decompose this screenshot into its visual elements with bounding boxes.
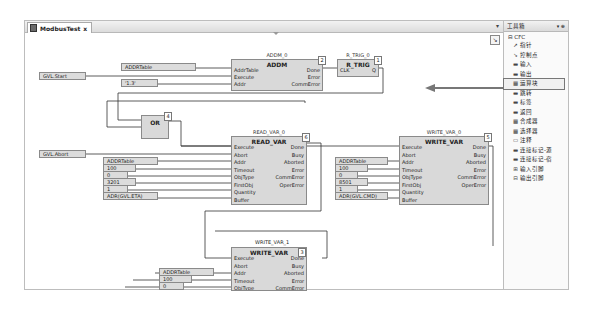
pin-done[interactable]: Done bbox=[291, 144, 304, 151]
toolbox-item-label: 运算块 bbox=[520, 80, 538, 86]
pin-commerror[interactable]: CommError bbox=[276, 174, 304, 181]
toolbox-item-selector[interactable]: ▦选择器 bbox=[504, 127, 568, 137]
toolbox-item-output-pin[interactable]: ⊟输出引脚 bbox=[504, 174, 568, 184]
pin-buffer[interactable]: Buffer bbox=[234, 197, 249, 204]
pin-busy[interactable]: Busy bbox=[292, 152, 304, 159]
pin-execute[interactable]: Execute bbox=[402, 144, 422, 151]
toolbox-item-input[interactable]: ▬输入 bbox=[504, 60, 568, 70]
fb-write-var-0[interactable]: WRITE_VAR_0 5 WRITE_VAR Execute Abort Ad… bbox=[399, 136, 489, 205]
toolbox-item-composer[interactable]: ▦合成器 bbox=[504, 117, 568, 127]
toolbox-item-label: 返回 bbox=[520, 109, 532, 115]
toolbox-item-label: 连接标记-源 bbox=[520, 147, 552, 153]
pin-timeout[interactable]: Timeout bbox=[234, 278, 254, 285]
execution-order-badge: 1 bbox=[374, 56, 382, 65]
output-pin-icon: ⊟ bbox=[512, 174, 519, 184]
toolbox-group-cfc[interactable]: ⊟ CFC bbox=[504, 32, 568, 41]
toolbox-title: 工具箱 bbox=[507, 23, 525, 29]
pin-done[interactable]: Done bbox=[473, 144, 486, 151]
pin-done[interactable]: Done bbox=[307, 67, 320, 74]
var-addr-literal[interactable]: '1.3' bbox=[121, 79, 158, 87]
pin-addr[interactable]: Addr bbox=[234, 270, 246, 277]
pin-abort[interactable]: Abort bbox=[402, 152, 416, 159]
var-read-buffer[interactable]: ADR(GVL.ETA) bbox=[103, 192, 158, 200]
pin-objtype[interactable]: ObjType bbox=[234, 174, 254, 181]
execution-order-badge: 4 bbox=[164, 112, 172, 121]
pin-execute[interactable]: Execute bbox=[234, 255, 254, 262]
pin-addrtable[interactable]: AddrTable bbox=[234, 67, 259, 74]
pin-aborted[interactable]: Aborted bbox=[284, 159, 304, 166]
pointer-icon: ➚ bbox=[512, 41, 519, 51]
pin-busy[interactable]: Busy bbox=[292, 263, 304, 270]
fb-write-var-1[interactable]: 3 WRITE_VAR Execute Abort Addr Timeout O… bbox=[231, 247, 307, 291]
toolbox-item-connection-source[interactable]: ▬连接标记-源 bbox=[504, 146, 568, 156]
pin-aborted[interactable]: Aborted bbox=[284, 270, 304, 277]
connection-sink-icon: ▬ bbox=[512, 155, 519, 165]
pin-objtype[interactable]: ObjType bbox=[234, 285, 254, 291]
pin-abort[interactable]: Abort bbox=[234, 152, 248, 159]
toolbox-item-box[interactable]: ▦运算块 bbox=[504, 79, 564, 89]
fb-read-var[interactable]: READ_VAR_0 6 READ_VAR Execute Abort Addr… bbox=[231, 136, 307, 205]
toolbox-item-pointer[interactable]: ➚指针 bbox=[504, 41, 568, 51]
pin-opererror[interactable]: OperError bbox=[462, 182, 486, 189]
pin-aborted[interactable]: Aborted bbox=[466, 159, 486, 166]
pin-quantity[interactable]: Quantity bbox=[402, 189, 424, 196]
pin-error[interactable]: Error bbox=[474, 167, 486, 174]
output-icon: ▬ bbox=[512, 70, 519, 80]
pin-opererror[interactable]: OperError bbox=[280, 182, 304, 189]
pin-error[interactable]: Error bbox=[292, 278, 304, 285]
var-write1-objtype[interactable]: 0 bbox=[159, 282, 184, 290]
pin-abort[interactable]: Abort bbox=[234, 263, 248, 270]
toolbox-item-jump[interactable]: ▬跳转 bbox=[504, 89, 568, 99]
control-point-icon: ➘ bbox=[512, 51, 519, 61]
pin-addr[interactable]: Addr bbox=[402, 159, 414, 166]
toolbox-pin-controls[interactable]: ▾ ⊕ bbox=[557, 21, 565, 31]
pin-objtype[interactable]: ObjType bbox=[402, 174, 422, 181]
pin-done[interactable]: Done bbox=[291, 255, 304, 262]
pin-execute[interactable]: Execute bbox=[234, 74, 254, 81]
pin-timeout[interactable]: Timeout bbox=[402, 167, 422, 174]
pin-execute[interactable]: Execute bbox=[234, 144, 254, 151]
pin-firstobj[interactable]: FirstObj bbox=[402, 182, 421, 189]
toolbox-item-connection-sink[interactable]: ▬连接标记-宿 bbox=[504, 155, 568, 165]
pin-clk[interactable]: CLK bbox=[340, 67, 350, 74]
pin-timeout[interactable]: Timeout bbox=[234, 167, 254, 174]
toolbox-item-input-pin[interactable]: ⊞输入引脚 bbox=[504, 165, 568, 175]
pin-commerror[interactable]: CommError bbox=[458, 174, 486, 181]
fb-r-trig[interactable]: R_TRIG_0 1 R_TRIG CLK Q bbox=[337, 59, 379, 77]
toolbox-item-label[interactable]: ▬标签 bbox=[504, 98, 568, 108]
pin-buffer[interactable]: Buffer bbox=[402, 197, 417, 204]
pin-busy[interactable]: Busy bbox=[474, 152, 486, 159]
toolbox-item-output[interactable]: ▬输出 bbox=[504, 70, 568, 80]
input-pin-icon: ⊞ bbox=[512, 165, 519, 175]
pin-commerror[interactable]: CommError bbox=[276, 285, 304, 291]
toolbox-item-label: 注释 bbox=[520, 137, 532, 143]
var-gvl-abort[interactable]: GVL.Abort bbox=[39, 150, 86, 158]
cfc-editor[interactable]: ModbusTest x ▾ ↘ bbox=[24, 20, 504, 290]
pin-q[interactable]: Q bbox=[372, 67, 376, 74]
toolbox-item-control-point[interactable]: ➘控制点 bbox=[504, 51, 568, 61]
pin-quantity[interactable]: Quantity bbox=[234, 189, 256, 196]
composer-icon: ▦ bbox=[512, 117, 519, 127]
toolbox-item-comment[interactable]: ▭注释 bbox=[504, 136, 568, 146]
toolbox-item-label: 输入 bbox=[520, 61, 532, 67]
fb-addm[interactable]: ADDM_0 2 ADDM AddrTable Execute Addr Don… bbox=[231, 59, 323, 91]
fb-instance-name: WRITE_VAR_1 bbox=[255, 239, 289, 246]
pin-addr[interactable]: Addr bbox=[234, 81, 246, 88]
pin-error[interactable]: Error bbox=[292, 167, 304, 174]
var-write0-buffer[interactable]: ADR(GVL.CMD) bbox=[335, 192, 388, 200]
box-icon: ▦ bbox=[512, 79, 519, 89]
toolbox-panel: 工具箱 ▾ ⊕ ⊟ CFC ➚指针 ➘控制点 ▬输入 ▬输出 ▦运算块 ▬跳转 … bbox=[503, 20, 569, 290]
toolbox-item-return[interactable]: ▬返回 bbox=[504, 108, 568, 118]
execution-order-badge: 6 bbox=[302, 133, 310, 142]
pin-error[interactable]: Error bbox=[308, 74, 320, 81]
pin-commerror[interactable]: CommError bbox=[292, 81, 320, 88]
fb-or[interactable]: 4 OR bbox=[141, 115, 169, 139]
fb-instance-name: ADDM_0 bbox=[232, 52, 322, 58]
pin-addr[interactable]: Addr bbox=[234, 159, 246, 166]
var-addrtable[interactable]: ADDRTable bbox=[121, 63, 196, 71]
pin-firstobj[interactable]: FirstObj bbox=[234, 182, 253, 189]
toolbox-item-label: 跳转 bbox=[520, 90, 532, 96]
var-gvl-start[interactable]: GVL.Start bbox=[39, 72, 86, 80]
return-icon: ▬ bbox=[512, 108, 519, 118]
fb-instance-name: WRITE_VAR_0 bbox=[400, 129, 488, 135]
